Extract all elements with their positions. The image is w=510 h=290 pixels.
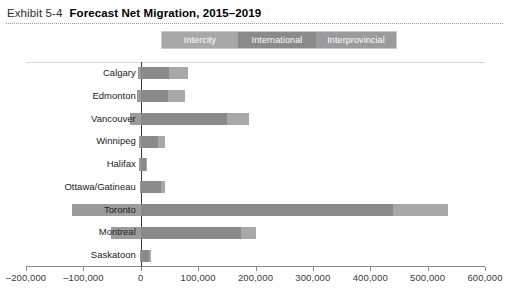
bar-segment-intercity	[158, 136, 165, 148]
bar-segment-international	[141, 250, 149, 262]
legend-item-intercity: Intercity	[162, 32, 238, 48]
x-tick-label: 300,000	[295, 272, 330, 283]
bar-segment-intercity	[227, 113, 249, 125]
category-label-saskatoon: Saskatoon	[21, 244, 141, 267]
x-tick	[313, 267, 314, 271]
category-label-montreal: Montreal	[21, 221, 141, 244]
bar-segment-international	[141, 204, 393, 216]
x-tick	[370, 267, 371, 271]
bar-row: Edmonton	[0, 85, 510, 108]
exhibit-number: Exhibit 5-4	[7, 7, 62, 19]
bar-row: Calgary	[0, 62, 510, 85]
x-tick-label: 600,000	[467, 272, 502, 283]
x-tick-label: 400,000	[353, 272, 388, 283]
x-tick	[83, 267, 84, 271]
bar-segment-international	[141, 90, 169, 102]
bar-segment-international	[141, 181, 161, 193]
category-label-edmonton: Edmonton	[21, 85, 141, 108]
category-label-winnipeg: Winnipeg	[21, 130, 141, 153]
legend-label: Interprovincial	[327, 35, 385, 45]
x-tick-label: –200,000	[6, 272, 46, 283]
x-tick-label: 200,000	[238, 272, 273, 283]
x-tick-label: 500,000	[410, 272, 445, 283]
bar-segment-international	[141, 113, 227, 125]
x-tick	[428, 267, 429, 271]
x-tick-label: 100,000	[181, 272, 216, 283]
bar-rows: CalgaryEdmontonVancouverWinnipegHalifaxO…	[0, 62, 510, 267]
category-label-halifax: Halifax	[21, 153, 141, 176]
header-divider	[6, 23, 503, 24]
legend-item-interprovincial: Interprovincial	[316, 32, 396, 48]
category-label-toronto: Toronto	[21, 199, 141, 222]
bar-row: Ottawa/Gatineau	[0, 176, 510, 199]
bar-row: Vancouver	[0, 108, 510, 131]
bar-row: Halifax	[0, 153, 510, 176]
bar-segment-international	[141, 67, 170, 79]
x-axis: –200,000–100,0000100,000200,000300,00040…	[0, 267, 510, 290]
legend-label: Intercity	[184, 35, 216, 45]
x-tick	[256, 267, 257, 271]
bar-row: Toronto	[0, 199, 510, 222]
bar-segment-intercity	[161, 181, 166, 193]
x-tick	[198, 267, 199, 271]
legend-item-international: International	[238, 32, 316, 48]
category-label-calgary: Calgary	[21, 62, 141, 85]
x-tick-label: –100,000	[63, 272, 103, 283]
bar-segment-intercity	[146, 158, 147, 170]
x-tick	[26, 267, 27, 271]
page-title: Forecast Net Migration, 2015–2019	[69, 7, 261, 19]
chart-area: CalgaryEdmontonVancouverWinnipegHalifaxO…	[0, 62, 510, 290]
x-tick	[485, 267, 486, 271]
bar-row: Winnipeg	[0, 130, 510, 153]
chart-legend: IntercityInternationalInterprovincial	[161, 31, 397, 49]
x-tick-label: 0	[138, 272, 143, 283]
bar-segment-intercity	[241, 227, 255, 239]
bar-segment-intercity	[169, 67, 188, 79]
x-tick	[141, 267, 142, 271]
bar-row: Montreal	[0, 221, 510, 244]
category-label-ottawa-gatineau: Ottawa/Gatineau	[21, 176, 141, 199]
bar-row: Saskatoon	[0, 244, 510, 267]
bar-segment-intercity	[168, 90, 185, 102]
category-label-vancouver: Vancouver	[21, 108, 141, 131]
legend-label: International	[252, 35, 303, 45]
bar-segment-international	[141, 136, 158, 148]
bar-segment-intercity	[393, 204, 448, 216]
bar-segment-international	[141, 227, 241, 239]
bar-segment-intercity	[149, 250, 151, 262]
